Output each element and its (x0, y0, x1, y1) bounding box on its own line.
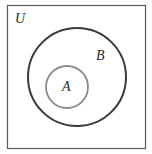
venn-diagram: U B A (0, 0, 152, 154)
set-a-label: A (61, 79, 71, 94)
set-b-circle (28, 28, 126, 126)
universe-label: U (15, 11, 26, 26)
set-b-label: B (96, 48, 105, 63)
